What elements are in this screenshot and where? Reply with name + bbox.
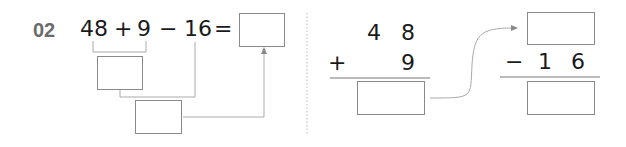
answer-box-difference[interactable] — [135, 100, 182, 134]
operand-16: 16 — [184, 18, 212, 40]
answer-box-sum[interactable] — [97, 56, 143, 90]
add-result-box[interactable] — [357, 81, 425, 115]
add-top-ones: 8 — [401, 22, 415, 44]
sub-operator: − — [505, 51, 523, 73]
operand-48: 48 — [80, 18, 108, 40]
add-bottom-ones: 9 — [401, 52, 415, 74]
operand-9: 9 — [137, 18, 151, 40]
sub-result-box[interactable] — [527, 81, 595, 115]
sub-bottom-ones: 6 — [571, 51, 585, 73]
plus-sign: + — [114, 18, 132, 40]
sub-top-box[interactable] — [527, 12, 595, 45]
answer-box-result[interactable] — [239, 13, 285, 47]
sub-bottom-tens: 1 — [538, 51, 552, 73]
equals-sign: = — [214, 18, 232, 40]
add-operator: + — [328, 52, 346, 74]
add-top-tens: 4 — [367, 22, 381, 44]
problem-number: 02 — [33, 20, 55, 40]
minus-sign: − — [159, 18, 177, 40]
